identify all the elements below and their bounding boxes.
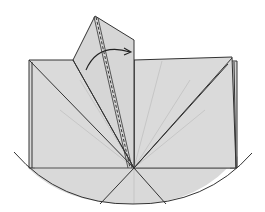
origami-diagram bbox=[0, 0, 265, 212]
